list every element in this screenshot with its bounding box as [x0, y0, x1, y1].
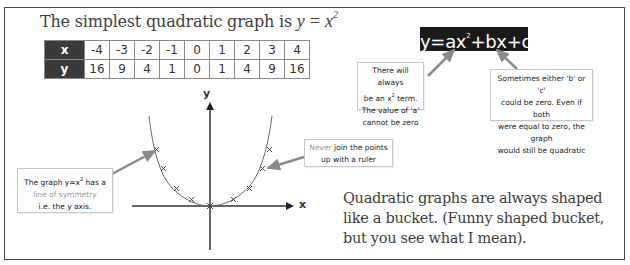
callout-line: Sometimes either 'b' or 'c': [494, 73, 589, 97]
callout-text: The graph y=x: [24, 178, 80, 187]
callout-text: be an x: [364, 94, 392, 103]
callout-line: up with a ruler: [308, 154, 389, 166]
callout-a-term: There will always be an x2 term. The val…: [357, 62, 424, 110]
callout-text-highlight: Never: [309, 143, 331, 152]
callout-line: There will always: [361, 65, 420, 89]
callout-ruler: Never join the points up with a ruler: [304, 139, 393, 167]
data-point-markers: [154, 147, 272, 209]
callout-line: cannot be zero: [361, 117, 420, 129]
callout-line: The value of 'a': [361, 105, 420, 117]
callout-line: Never join the points: [308, 142, 389, 154]
arrow-to-bc-terms: [497, 50, 517, 69]
callout-line: were equal to zero, the graph: [494, 121, 589, 145]
callout-b-c-zero: Sometimes either 'b' or 'c' could be zer…: [490, 69, 593, 121]
callout-text: term.: [395, 94, 418, 103]
callout-symmetry: The graph y=x2 has a line of symmetry i.…: [17, 168, 113, 213]
arrow-to-a-term: [428, 50, 454, 76]
bucket-note: Quadratic graphs are always shaped like …: [343, 188, 623, 248]
callout-text: has a: [83, 178, 106, 187]
callout-line: be an x2 term.: [361, 89, 420, 105]
callout-line: The graph y=x2 has a: [21, 173, 109, 189]
arrow-to-ruler-point: [268, 157, 304, 168]
y-axis-label: y: [203, 87, 210, 100]
callout-line-highlight: line of symmetry: [21, 189, 109, 201]
callout-line: would still be quadratic: [494, 145, 589, 157]
arrow-to-symmetry-point: [112, 151, 155, 174]
callout-line: i.e. the y axis.: [21, 201, 109, 213]
x-axis-label: x: [299, 198, 306, 211]
callout-text: join the points: [332, 143, 388, 152]
callout-line: could be zero. Even if both: [494, 97, 589, 121]
